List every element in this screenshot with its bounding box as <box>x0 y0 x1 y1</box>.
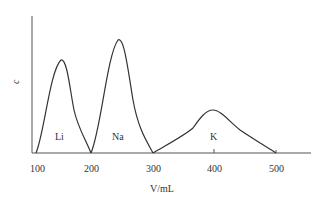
peak-label-na: Na <box>112 131 124 142</box>
peak-label-k: K <box>210 131 218 142</box>
x-axis-label: V/mL <box>150 183 174 194</box>
y-axis-label: c <box>10 79 21 84</box>
x-tick-label-400: 400 <box>207 163 222 174</box>
peak-label-li: Li <box>55 131 64 142</box>
x-tick-label-200: 200 <box>84 163 99 174</box>
x-tick-label-100: 100 <box>30 163 45 174</box>
chromatogram-chart: Li Na K c 100 200 300 400 500 V/mL <box>0 0 329 205</box>
x-tick-label-500: 500 <box>269 163 284 174</box>
x-tick-label-300: 300 <box>146 163 161 174</box>
